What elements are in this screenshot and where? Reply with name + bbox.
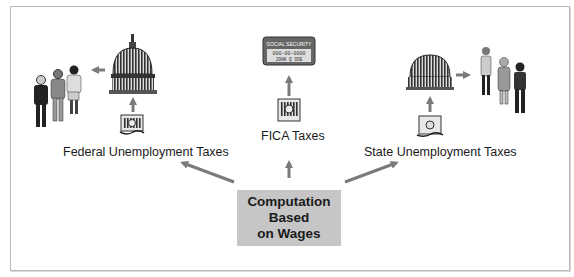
state-dome-icon bbox=[406, 55, 454, 90]
money-icon bbox=[278, 99, 300, 121]
fica-label: FICA Taxes bbox=[261, 129, 325, 143]
social-security-card-icon: SOCIAL SECURITY 000-00-0000 JOHN Q DOE bbox=[263, 37, 315, 65]
arrow-to-federal bbox=[183, 163, 234, 182]
center-line-1: Computation bbox=[247, 194, 330, 210]
federal-unemployment-label: Federal Unemployment Taxes bbox=[63, 145, 229, 159]
capitol-dome-icon bbox=[109, 34, 157, 94]
money-icon bbox=[120, 115, 144, 134]
unemployed-people-icon bbox=[481, 47, 526, 113]
money-icon bbox=[417, 116, 443, 136]
card-title: SOCIAL SECURITY bbox=[267, 41, 312, 47]
computation-box: Computation Based on Wages bbox=[237, 190, 341, 246]
center-line-2: Based bbox=[269, 210, 310, 226]
arrow-to-state bbox=[345, 163, 396, 182]
center-line-3: on Wages bbox=[257, 226, 320, 242]
state-unemployment-label: State Unemployment Taxes bbox=[364, 145, 517, 159]
svg-text:JOHN Q DOE: JOHN Q DOE bbox=[275, 57, 302, 62]
unemployed-people-icon bbox=[34, 66, 81, 128]
